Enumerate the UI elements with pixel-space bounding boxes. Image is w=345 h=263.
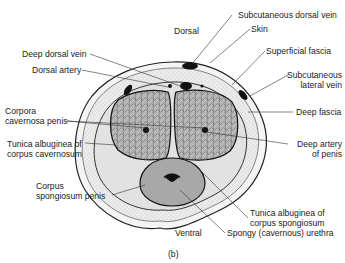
label-ventral: Ventral: [175, 228, 202, 238]
dorsal-artery-right: [200, 84, 203, 87]
label-dorsal: Dorsal: [174, 26, 199, 36]
label-skin: Skin: [251, 24, 268, 34]
label-subcutaneous-dorsal-vein: Subcutaneous dorsal vein: [238, 10, 337, 20]
label-corpus-spongiosum-penis: Corpusspongiosum penis: [36, 181, 105, 201]
corpus-spongiosum: [140, 158, 205, 206]
corpus-cavernosum-left: [111, 91, 171, 160]
label-dorsal-artery: Dorsal artery: [32, 65, 81, 75]
label-corpora-cavernosa-penis: Corporacavernosa penis: [5, 106, 68, 126]
label-deep-artery-of-penis: Deep arteryof penis: [297, 139, 342, 159]
subcutaneous-dorsal-vein: [182, 63, 198, 70]
label-deep-dorsal-vein: Deep dorsal vein: [22, 49, 87, 59]
label-deep-fascia: Deep fascia: [296, 107, 341, 117]
deep-dorsal-vein: [180, 82, 192, 90]
label-tunica-albuginea-spongiosum: Tunica albuginea ofcorpus spongiosum: [250, 208, 325, 228]
label-subcutaneous-lateral-vein: Subcutaneouslateral vein: [287, 70, 342, 90]
panel-label: (b): [168, 249, 179, 259]
label-superficial-fascia: Superficial fascia: [266, 46, 331, 56]
corpus-cavernosum-right: [174, 90, 237, 160]
label-tunica-albuginea-cavernosum: Tunica albuginea ofcorpus cavernosum: [7, 139, 82, 159]
label-spongy-urethra: Spongy (cavernous) urethra: [227, 228, 334, 238]
dorsal-artery-left: [168, 84, 172, 88]
